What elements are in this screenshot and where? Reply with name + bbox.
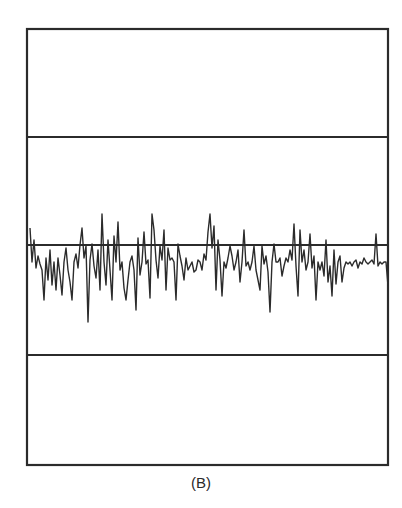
waveform-trace (30, 214, 388, 322)
waveform-figure (0, 0, 402, 508)
figure-caption: (B) (0, 474, 402, 491)
